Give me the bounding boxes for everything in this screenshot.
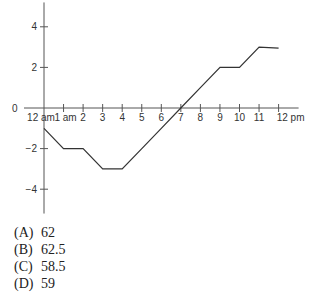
x-tick-label: 5 bbox=[139, 112, 145, 123]
choice-letter: (B) bbox=[14, 241, 41, 258]
y-tick-label: −4 bbox=[26, 184, 38, 195]
x-tick-label: 10 bbox=[234, 112, 246, 123]
choice-letter: (A) bbox=[14, 224, 41, 241]
x-tick-label: 11 bbox=[254, 112, 265, 123]
x-tick-label: 3 bbox=[100, 112, 106, 123]
x-tick-label: 4 bbox=[119, 112, 125, 123]
y-tick-label: −2 bbox=[26, 143, 38, 154]
choice-value: 58.5 bbox=[41, 258, 66, 275]
x-tick-label: 2 bbox=[80, 112, 86, 123]
choice-value: 59 bbox=[41, 275, 55, 292]
x-tick-label: 6 bbox=[159, 112, 165, 123]
choice-letter: (C) bbox=[14, 258, 41, 275]
answer-choice-b[interactable]: (B) 62.5 bbox=[14, 241, 66, 258]
x-tick-label: 8 bbox=[198, 112, 204, 123]
x-tick-label: 12 pm bbox=[277, 112, 305, 123]
y-tick-label: 2 bbox=[31, 62, 37, 73]
choice-value: 62 bbox=[41, 224, 55, 241]
y-tick-label: 4 bbox=[31, 21, 37, 32]
y-tick-label: 0 bbox=[12, 103, 18, 114]
choice-value: 62.5 bbox=[41, 241, 66, 258]
x-tick-label: 1 am bbox=[54, 112, 76, 123]
answer-choice-c[interactable]: (C) 58.5 bbox=[14, 258, 66, 275]
x-tick-label: 9 bbox=[217, 112, 223, 123]
x-tick-label: 7 bbox=[178, 112, 184, 123]
answer-choices: (A) 62 (B) 62.5 (C) 58.5 (D) 59 bbox=[14, 224, 66, 292]
choice-letter: (D) bbox=[14, 275, 41, 292]
x-tick-label: 12 am bbox=[27, 112, 55, 123]
x-ticks: 12 am1 am23456789101112 pm bbox=[27, 104, 304, 123]
answer-choice-d[interactable]: (D) 59 bbox=[14, 275, 66, 292]
line-chart: 420−2−4 12 am1 am23456789101112 pm bbox=[0, 0, 317, 222]
answer-choice-a[interactable]: (A) 62 bbox=[14, 224, 66, 241]
